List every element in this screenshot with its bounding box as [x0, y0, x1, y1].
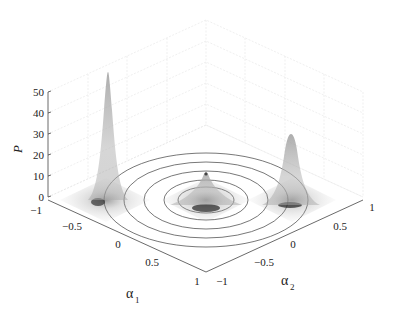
a1-tick-05: 0.5 [145, 256, 159, 268]
alpha2-axis-label: α 2 [281, 273, 295, 292]
left-peak [88, 72, 128, 200]
z-tick-20: 20 [33, 149, 45, 161]
a1-tick-0: 0 [115, 238, 121, 250]
a2-tick-0: 0 [290, 238, 296, 250]
a2-tick-1: 1 [369, 201, 375, 213]
z-tick-40: 40 [33, 107, 45, 119]
z-tick-10: 10 [33, 170, 45, 182]
grid-walls [48, 20, 363, 197]
z-tick-30: 30 [33, 128, 45, 140]
z-tick-0: 0 [39, 191, 45, 203]
alpha2-subscript: 2 [290, 282, 295, 292]
a2-tick-neg05: −0.5 [254, 256, 274, 268]
z-tick-50: 50 [33, 86, 45, 98]
a1-tick-neg1: −1 [30, 204, 42, 216]
a1-tick-neg05: −0.5 [62, 220, 82, 232]
surface-plot-3d: 50 40 30 20 10 0 −1 −0.5 0 0.5 1 −1 −0.5… [0, 0, 393, 318]
alpha1-axis-label: α 1 [126, 286, 140, 305]
alpha2-symbol: α [281, 273, 289, 288]
a2-tick-05: 0.5 [333, 220, 347, 232]
a2-tick-neg1: −1 [216, 275, 228, 287]
z-axis-label: P [10, 145, 25, 154]
a1-tick-1: 1 [194, 275, 200, 287]
alpha1-subscript: 1 [135, 295, 140, 305]
alpha1-symbol: α [126, 286, 134, 301]
